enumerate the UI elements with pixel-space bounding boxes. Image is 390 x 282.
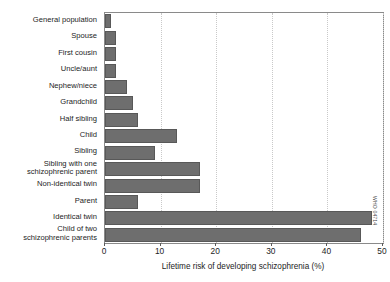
category-label: Non-identical twin <box>0 180 100 188</box>
category-label: Sibling with one schizophrenic parent <box>0 160 100 177</box>
x-tick-label: 50 <box>377 246 386 256</box>
bar <box>105 211 372 225</box>
gridline <box>383 13 384 243</box>
category-label: Sibling <box>0 147 100 155</box>
bar <box>105 228 361 242</box>
category-label: Parent <box>0 197 100 205</box>
bar <box>105 64 116 78</box>
bar <box>105 96 133 110</box>
x-axis-title: Lifetime risk of developing schizophreni… <box>104 262 382 272</box>
category-label: Child of two schizophrenic parents <box>0 225 100 242</box>
x-tick-label: 30 <box>266 246 275 256</box>
bar <box>105 179 200 193</box>
bar <box>105 195 138 209</box>
category-label: First cousin <box>0 49 100 57</box>
chart-figure: General populationSpouseFirst cousinUncl… <box>0 0 390 282</box>
x-tick-label: 0 <box>102 246 107 256</box>
bar <box>105 31 116 45</box>
bar <box>105 162 200 176</box>
x-axis-ticks: 01020304050 <box>104 243 382 257</box>
category-label: General population <box>0 16 100 24</box>
x-tick-label: 40 <box>322 246 331 256</box>
bar <box>105 146 155 160</box>
category-label: Uncle/aunt <box>0 65 100 73</box>
bar <box>105 14 111 28</box>
bar <box>105 47 116 61</box>
category-label: Spouse <box>0 32 100 40</box>
x-tick-label: 10 <box>155 246 164 256</box>
category-axis-labels: General populationSpouseFirst cousinUncl… <box>0 12 100 242</box>
bar <box>105 80 127 94</box>
bar-series <box>105 13 383 243</box>
plot-area <box>104 12 384 244</box>
category-label: Child <box>0 131 100 139</box>
category-label: Identical twin <box>0 213 100 221</box>
bar <box>105 113 138 127</box>
bar <box>105 129 177 143</box>
x-tick-label: 20 <box>211 246 220 256</box>
category-label: Grandchild <box>0 98 100 106</box>
category-label: Half sibling <box>0 115 100 123</box>
category-label: Nephew/niece <box>0 82 100 90</box>
source-credit: WHO 04714 <box>372 196 378 246</box>
